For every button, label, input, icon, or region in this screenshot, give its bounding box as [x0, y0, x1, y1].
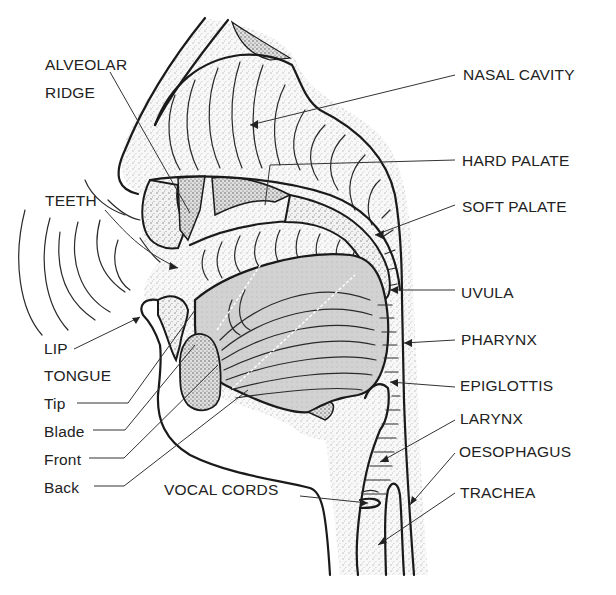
label-tongue-tip: Tip — [44, 395, 66, 412]
label-nasal-cavity: NASAL CAVITY — [463, 66, 575, 83]
label-tongue: TONGUE — [44, 367, 111, 384]
label-lip: LIP — [44, 340, 68, 357]
label-epiglottis: EPIGLOTTIS — [460, 377, 553, 394]
label-vocal-cords: VOCAL CORDS — [164, 481, 278, 498]
label-soft-palate: SOFT PALATE — [462, 198, 567, 215]
label-pharynx: PHARYNX — [461, 331, 537, 348]
label-tongue-blade: Blade — [44, 423, 85, 440]
label-uvula: UVULA — [461, 284, 514, 301]
label-trachea: TRACHEA — [460, 484, 535, 501]
label-oesophagus: OESOPHAGUS — [459, 443, 571, 460]
label-teeth: TEETH — [45, 192, 97, 209]
label-alveolar-ridge: ALVEOLAR — [45, 56, 127, 73]
label-hard-palate: HARD PALATE — [462, 152, 570, 169]
label-alveolar-ridge-line2: RIDGE — [45, 84, 95, 101]
label-tongue-back: Back — [44, 479, 79, 496]
label-tongue-front: Front — [44, 451, 81, 468]
label-larynx: LARYNX — [460, 410, 523, 427]
